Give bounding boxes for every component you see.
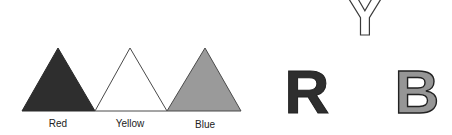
red-triangle xyxy=(22,48,95,111)
blue-triangle xyxy=(167,48,241,111)
letter-b: B xyxy=(395,57,440,126)
yellow-triangle xyxy=(95,48,167,111)
triangle-labels: Red Yellow Blue xyxy=(49,118,216,130)
yellow-label: Yellow xyxy=(116,118,145,129)
letters-group: Y R B xyxy=(285,0,440,126)
blue-label: Blue xyxy=(195,119,215,130)
red-label: Red xyxy=(49,118,67,129)
letter-r: R xyxy=(285,57,330,126)
letter-y: Y xyxy=(344,0,385,48)
triangles-group xyxy=(22,48,241,111)
color-diagram: Red Yellow Blue Y R B xyxy=(0,0,452,135)
